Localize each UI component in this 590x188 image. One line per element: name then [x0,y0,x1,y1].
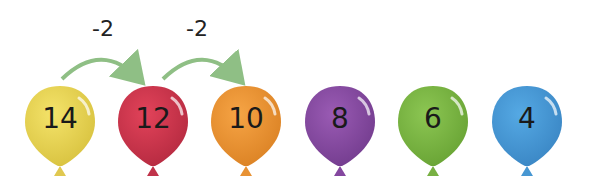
arrow-icon [163,60,240,80]
balloon-number-line: -2 -2 141210864 [0,0,590,188]
step-label: -2 [186,16,208,41]
balloon: 14 [25,84,95,180]
balloon: 8 [305,84,375,180]
balloon: 4 [492,84,562,180]
balloon-number: 12 [118,102,188,135]
balloon-number: 8 [305,102,375,135]
arrow-icon [62,60,140,80]
step-label: -2 [92,16,114,41]
balloon-number: 4 [492,102,562,135]
balloon: 6 [398,84,468,180]
balloon-number: 10 [211,102,281,135]
balloon: 12 [118,84,188,180]
balloon: 10 [211,84,281,180]
balloon-number: 14 [25,102,95,135]
balloon-number: 6 [398,102,468,135]
